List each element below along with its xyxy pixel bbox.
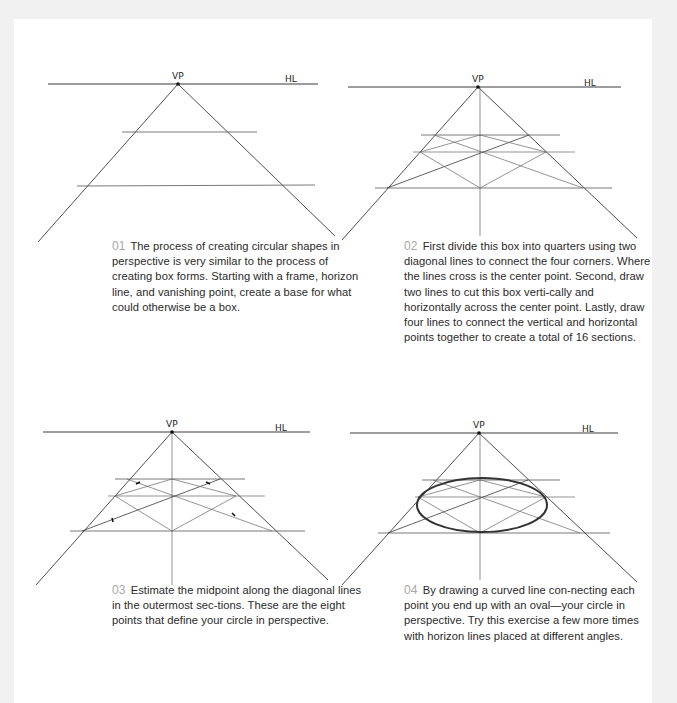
right-orthogonal [172,432,328,580]
vp-label: VP [473,420,485,430]
hl-label: HL [584,78,596,88]
left-orthogonal [342,87,478,240]
drawing-step-03 [36,430,328,585]
step-text: By drawing a curved line con-necting eac… [404,584,639,642]
step-number: 01 [112,239,125,253]
step-number: 02 [404,239,417,253]
perspective-circle-oval [417,478,547,532]
step-number: 03 [112,583,125,597]
hl-label: HL [275,423,287,433]
vanishing-point-dot [176,82,180,86]
step-caption-03: 03 Estimate the midpoint along the diago… [112,583,362,629]
diamond [420,135,546,188]
step-text: The process of creating circular shapes … [112,240,358,313]
step-caption-04: 04 By drawing a curved line con-necting … [404,583,654,644]
step-number: 04 [404,583,417,597]
left-orthogonal [36,432,172,585]
drawing-step-01 [38,82,335,242]
step-text: First divide this box into quarters usin… [404,240,650,343]
left-orthogonal [38,84,178,242]
right-orthogonal [178,84,335,236]
diamond [115,479,236,531]
right-orthogonal [478,87,637,238]
hl-label: HL [582,424,594,434]
left-orthogonal [342,433,479,585]
right-orthogonal [479,433,637,582]
vp-label: VP [166,419,178,429]
vp-label: VP [472,74,484,84]
drawing-step-02 [342,85,637,240]
step-text: Estimate the midpoint along the diagonal… [112,584,361,626]
vp-label: VP [172,71,184,81]
step-caption-02: 02 First divide this box into quarters u… [404,239,654,345]
hl-label: HL [285,74,297,84]
front-edge [77,185,315,186]
step-caption-01: 01 The process of creating circular shap… [112,239,362,315]
drawing-step-04 [342,431,637,585]
midpoint-marks [112,482,235,522]
